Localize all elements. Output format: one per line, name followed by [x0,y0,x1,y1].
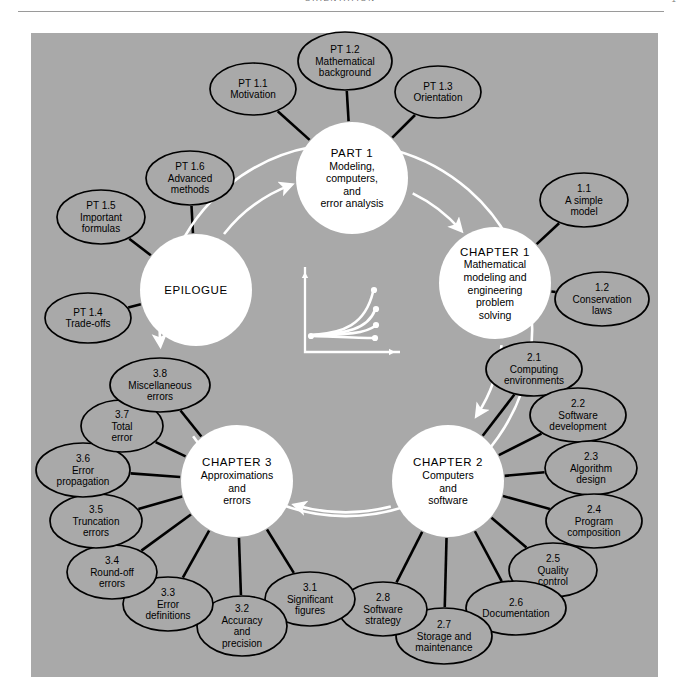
leaf-node-pt-1-3[interactable]: PT 1.3Orientation [395,66,481,118]
leaf-node-ch-3-8[interactable]: 3.8Miscellaneouserrors [110,358,210,412]
leaf-text: Motivation [230,89,276,100]
leaf-number: 2.5 [546,553,560,564]
connector-ch-3-7 [156,442,186,456]
leaf-node-ch-1-2[interactable]: 1.2Conservationlaws [555,272,649,326]
leaf-number: 2.6 [509,597,523,608]
leaf-text: error [111,432,133,443]
leaf-node-pt-1-6[interactable]: PT 1.6Advancedmethods [146,151,234,205]
connector-ch-3-6 [131,473,181,477]
leaf-node-ch-3-5[interactable]: 3.5Truncationerrors [50,494,142,548]
hub-subtitle-line: modeling and [463,271,526,283]
hub-node-chapter-3[interactable]: CHAPTER 3Approximationsanderrors [181,425,293,537]
leaf-text: background [319,67,371,78]
connector-pt-1-3 [392,115,415,138]
connector-ch-3-3 [183,531,209,578]
hub-subtitle-line: engineering [468,284,523,296]
leaf-number: 2.3 [584,451,598,462]
connector-pt-1-4 [128,304,141,307]
hub-subtitle-line: errors [223,494,250,506]
leaf-node-ch-2-3[interactable]: 2.3Algorithmdesign [545,441,637,495]
leaf-node-ch-2-2[interactable]: 2.2Softwaredevelopment [530,388,626,442]
hub-node-chapter-2[interactable]: CHAPTER 2Computersandsoftware [392,425,504,537]
hub-node-part-1[interactable]: PART 1Modeling,computers,anderror analys… [296,122,408,234]
hub-subtitle-line: Approximations [201,469,273,481]
leaf-text: Quality [537,565,568,576]
leaf-text: Mathematical [315,56,374,67]
leaf-number: PT 1.4 [73,307,103,318]
connector-ch-2-3 [505,472,545,476]
leaf-node-ch-3-4[interactable]: 3.4Round-offerrors [67,545,157,599]
connector-ch-3-1 [267,529,294,572]
connector-ch-2-1 [483,395,515,436]
leaf-text: Computing [510,364,558,375]
hub-title: CHAPTER 3 [202,456,272,468]
leaf-node-pt-1-4[interactable]: PT 1.4Trade-offs [45,293,131,343]
leaf-text: and [234,626,251,637]
hub-node-chapter-1[interactable]: CHAPTER 1Mathematicalmodeling andenginee… [439,227,551,339]
connector-pt-1-5 [129,239,151,256]
leaf-text: development [549,421,606,432]
leaf-text: Significant [287,594,333,605]
leaf-text: Software [558,410,598,421]
flow-arrow-epilogue-to-part1 [224,185,290,234]
flow-arrow-chapter2-to-chapter3 [296,505,391,512]
figure-page: ORIENTATION 1 PT 1.1MotivationPT 1.2Math… [0,0,680,700]
leaf-number: PT 1.2 [330,44,360,55]
leaf-text: Accuracy [221,615,262,626]
leaf-node-ch-1-1[interactable]: 1.1A simplemodel [540,173,628,227]
leaf-node-pt-1-1[interactable]: PT 1.1Motivation [210,63,296,115]
hub-subtitle-line: Modeling, [329,160,375,172]
leaf-node-pt-1-2[interactable]: PT 1.2Mathematicalbackground [298,32,392,90]
leaf-text: A simple [565,195,603,206]
leaf-text: errors [99,578,125,589]
connector-pt-1-6 [191,206,192,233]
leaf-text: Round-off [90,567,134,578]
concept-map-diagram: PT 1.1MotivationPT 1.2Mathematicalbackgr… [0,0,680,700]
leaf-number: 1.1 [577,183,591,194]
leaf-number: PT 1.1 [238,78,268,89]
leaf-number: 2.7 [437,619,451,630]
connector-ch-1-1 [537,223,559,244]
flow-arrow-part1-to-chapter1 [413,193,461,229]
leaf-text: Program [575,516,613,527]
connector-ch-2-4 [503,496,550,509]
connector-pt-1-1 [278,111,310,140]
leaf-text: Error [157,599,180,610]
leaf-text: errors [147,391,173,402]
leaf-node-ch-2-4[interactable]: 2.4Programcomposition [546,494,642,548]
leaf-number: 3.4 [105,555,119,566]
leaf-number: 3.1 [303,582,317,593]
leaf-text: Advanced [168,173,212,184]
connector-pt-1-2 [347,91,349,121]
hub-title: EPILOGUE [164,284,228,296]
leaf-number: PT 1.3 [423,81,453,92]
leaf-text: precision [222,638,262,649]
leaf-number: 3.5 [89,504,103,515]
leaf-number: 2.8 [376,592,390,603]
hub-subtitle-line: and [439,482,457,494]
leaf-text: methods [171,184,209,195]
leaf-number: 3.2 [235,603,249,614]
hub-subtitle-line: Computers [422,469,473,481]
connector-ch-2-2 [499,434,542,456]
leaf-text: Miscellaneous [128,380,191,391]
connector-ch-3-4 [141,515,190,551]
leaf-number: 2.2 [571,398,585,409]
leaf-node-pt-1-5[interactable]: PT 1.5Importantformulas [57,190,145,244]
hub-node-epilogue[interactable]: EPILOGUE [140,234,252,346]
leaf-text: Conservation [573,294,632,305]
hub-subtitle-line: computers, [326,172,378,184]
hub-subtitle-line: software [428,494,468,506]
hub-title: CHAPTER 1 [460,246,530,258]
connector-ch-2-8 [397,532,423,583]
leaf-text: composition [567,527,620,538]
leaf-text: model [570,206,597,217]
leaf-text: strategy [365,615,401,626]
leaf-text: definitions [145,610,190,621]
hub-subtitle-line: solving [479,309,512,321]
leaf-number: 2.4 [587,504,601,515]
leaf-text: Documentation [482,608,549,619]
connector-ch-3-2 [239,538,241,595]
leaf-text: Algorithm [570,463,612,474]
connector-ch-3-8 [180,411,201,437]
